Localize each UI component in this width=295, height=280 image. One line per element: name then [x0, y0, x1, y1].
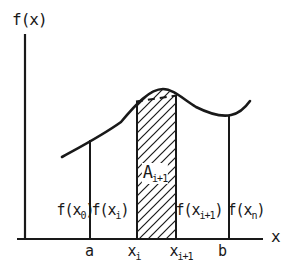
label-f-xi1: f(xi+1) — [175, 202, 222, 221]
tick-a: a — [85, 243, 93, 262]
x-axis-label: x — [271, 228, 280, 246]
area-label: Ai+1 — [142, 163, 168, 184]
area-label-main: A — [143, 162, 152, 182]
tick-xi1: xi+1 — [169, 243, 192, 262]
label-f-xi: f(xi) — [91, 202, 128, 221]
tick-b: b — [218, 243, 226, 262]
numerical-integration-diagram: f(x) x Ai+1 f(x0) f(xi) f(xi+1) f(xn) a … — [0, 0, 295, 280]
y-axis-label: f(x) — [12, 11, 47, 29]
label-f-x0: f(x0) — [56, 202, 93, 221]
area-label-sub: i+1 — [152, 173, 167, 184]
label-f-xn: f(xn) — [227, 202, 264, 221]
diagram-canvas — [0, 0, 295, 280]
tick-xi: xi — [127, 243, 140, 262]
